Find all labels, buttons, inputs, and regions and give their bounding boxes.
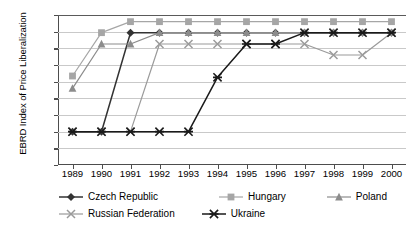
legend-label: Czech Republic [88,191,158,203]
x-axis-tick-label: 2000 [372,168,412,179]
data-point-square [272,18,279,25]
legend-marker-icon [58,208,84,220]
chart-figure: EBRD Index of Price Liberalization 0.000… [0,0,415,226]
series-russian-federation [69,29,396,136]
legend-glyph-triangle [326,191,352,203]
legend-label: Hungary [248,191,286,203]
legend-glyph-square [218,191,244,203]
data-series-layer [58,15,406,165]
data-point-square [185,18,192,25]
data-point-triangle [69,84,77,92]
legend-row-2: Russian FederationUkraine [58,205,406,222]
data-point-square [98,29,105,36]
series-hungary [69,18,395,79]
data-point-square [301,18,308,25]
data-point-square [69,73,76,80]
legend-marker-icon [58,191,84,203]
data-point-square [359,18,366,25]
data-point-asterisk [184,128,193,136]
chart-legend: Czech RepublicHungaryPoland Russian Fede… [58,188,406,222]
legend-item-ukraine[interactable]: Ukraine [201,208,265,220]
data-point-asterisk [242,40,251,48]
plot-area: 0.000.501.001.502.002.503.003.504.004.50… [58,15,406,165]
legend-row-1: Czech RepublicHungaryPoland [58,188,406,205]
data-point-asterisk [271,40,280,48]
legend-marker-icon [326,191,352,203]
data-point-square [228,193,235,200]
data-point-asterisk [126,128,135,136]
series-czech-republic [69,29,396,136]
y-axis-title: EBRD Index of Price Liberalization [17,4,28,164]
data-point-square [214,18,221,25]
data-point-asterisk [155,128,164,136]
legend-marker-icon [201,208,227,220]
legend-glyph-diamond [58,191,84,203]
legend-label: Poland [356,191,387,203]
legend-item-poland[interactable]: Poland [326,191,387,203]
data-point-square [330,18,337,25]
legend-item-russian-federation[interactable]: Russian Federation [58,208,175,220]
legend-glyph-asterisk [201,208,227,220]
data-point-asterisk [209,209,218,217]
data-point-asterisk [213,73,222,81]
data-point-diamond [127,29,135,37]
data-point-diamond [67,193,75,201]
y-axis-tick [54,165,58,166]
legend-label: Ukraine [231,208,265,220]
data-point-square [388,18,395,25]
data-point-square [243,18,250,25]
legend-marker-icon [218,191,244,203]
legend-item-hungary[interactable]: Hungary [218,191,286,203]
legend-label: Russian Federation [88,208,175,220]
legend-glyph-cross [58,208,84,220]
data-point-square [156,18,163,25]
data-point-square [127,18,134,25]
series-ukraine [68,29,396,136]
legend-item-czech-republic[interactable]: Czech Republic [58,191,158,203]
